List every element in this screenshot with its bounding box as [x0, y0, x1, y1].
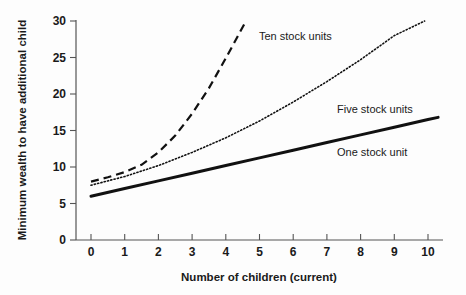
x-tick-label-10: 10: [421, 245, 435, 259]
y-tick-label-10: 10: [53, 160, 67, 174]
series-label-ten-stock-units: Ten stock units: [259, 30, 332, 42]
x-tick-label-8: 8: [357, 245, 364, 259]
y-tick-label-5: 5: [59, 197, 66, 211]
y-tick-label-25: 25: [53, 51, 67, 65]
x-axis-title: Number of children (current): [181, 271, 337, 283]
line-chart: 0 5 10 15 20 25 30 0 1 2 3 4 5 6 7 8: [0, 0, 466, 295]
y-tick-label-0: 0: [59, 233, 66, 247]
series-line-ten-stock-units: [91, 21, 246, 182]
x-tick-label-1: 1: [121, 245, 128, 259]
x-tick-label-0: 0: [88, 245, 95, 259]
x-tick-label-3: 3: [189, 245, 196, 259]
series-label-one-stock-unit: One stock unit: [337, 146, 407, 158]
x-tick-label-4: 4: [222, 245, 229, 259]
y-axis-ticks: [70, 21, 76, 240]
y-tick-label-20: 20: [53, 87, 67, 101]
y-axis-title: Minimum wealth to have additional child: [16, 20, 28, 240]
x-tick-label-7: 7: [324, 245, 331, 259]
y-tick-label-30: 30: [53, 14, 67, 28]
chart-figure: 0 5 10 15 20 25 30 0 1 2 3 4 5 6 7 8: [0, 0, 466, 295]
y-tick-label-15: 15: [53, 124, 67, 138]
x-axis-ticks: [91, 234, 428, 240]
x-tick-label-6: 6: [290, 245, 297, 259]
x-tick-label-9: 9: [391, 245, 398, 259]
x-tick-label-2: 2: [155, 245, 162, 259]
x-tick-label-5: 5: [256, 245, 263, 259]
series-label-five-stock-units: Five stock units: [337, 103, 413, 115]
